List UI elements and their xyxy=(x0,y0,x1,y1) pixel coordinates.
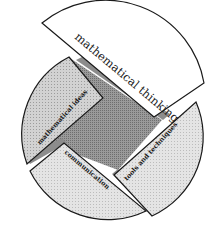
segmented-circle-diagram: mathematical thinking mathematical ideas… xyxy=(0,0,220,242)
